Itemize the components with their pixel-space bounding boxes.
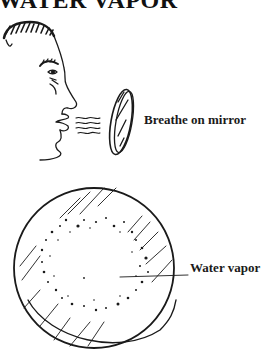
illustration: [0, 0, 268, 353]
label-breathe-on-mirror: Breathe on mirror: [144, 112, 246, 128]
breath-lines: [76, 117, 100, 133]
mirror-side-icon: [105, 88, 137, 156]
label-water-vapor: Water vapor: [190, 260, 260, 276]
fogged-mirror-icon: [14, 188, 188, 348]
person-profile-icon: [4, 22, 77, 160]
